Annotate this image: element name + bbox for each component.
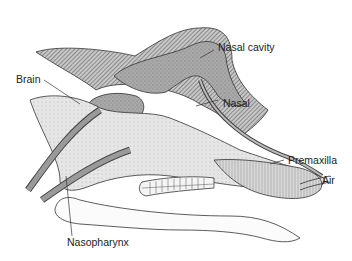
label-nasal-cavity: Nasal cavity <box>218 42 275 53</box>
dolphin-head-diagram: Nasal cavity Brain Nasal Premaxilla Air … <box>0 0 352 261</box>
jaw-teeth <box>139 177 214 196</box>
label-premaxilla: Premaxilla <box>288 155 337 166</box>
anatomy-illustration <box>0 0 352 261</box>
label-nasopharynx: Nasopharynx <box>67 237 129 248</box>
label-brain: Brain <box>16 74 41 85</box>
label-nasal: Nasal <box>223 98 250 109</box>
label-air: Air <box>322 175 335 186</box>
